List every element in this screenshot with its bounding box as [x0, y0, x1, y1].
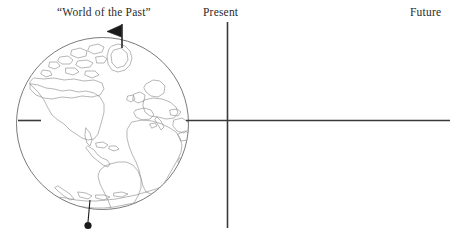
axes-layer	[0, 0, 467, 234]
timeline-figure: “World of the Past” Present Future	[0, 0, 467, 234]
